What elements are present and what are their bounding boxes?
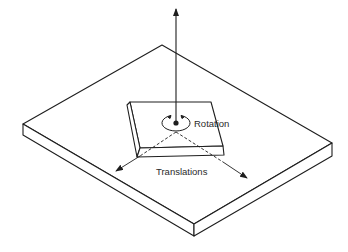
rotation-label: Rotation — [194, 118, 229, 129]
translations-label: Translations — [156, 166, 208, 177]
diagram-canvas: Rotation Translations — [0, 0, 348, 252]
block-front-face — [137, 146, 224, 157]
rotation-center-dot — [173, 120, 178, 125]
